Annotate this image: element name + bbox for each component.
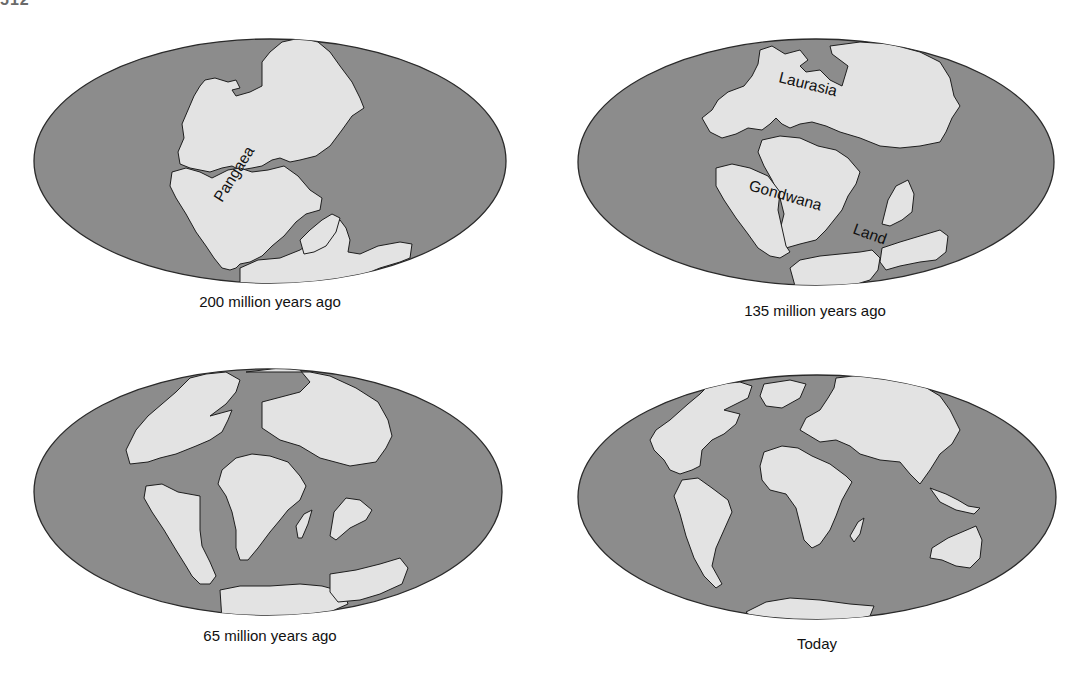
map-135-million-years-ago: Laurasia Gondwana Land	[578, 39, 1054, 288]
continental-drift-figure: Pangaea Laurasia Gondwana Land	[0, 0, 1089, 688]
caption-135-million-years-ago: 135 million years ago	[715, 302, 915, 319]
caption-65-million-years-ago: 65 million years ago	[170, 627, 370, 644]
caption-200-million-years-ago: 200 million years ago	[170, 293, 370, 310]
map-today	[578, 374, 1056, 624]
map-65-million-years-ago	[34, 368, 502, 620]
caption-today: Today	[717, 635, 917, 652]
map-200-million-years-ago: Pangaea	[34, 38, 506, 286]
